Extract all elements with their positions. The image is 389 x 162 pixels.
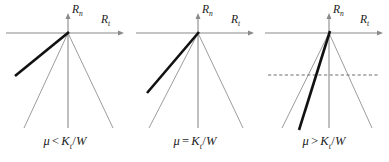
caption-operator: < — [52, 134, 59, 148]
caption-numerator: Kt — [320, 134, 331, 148]
horizontal-axis-arrow-icon — [118, 30, 124, 35]
panel-3-caption: μ>Kt/W — [259, 134, 389, 151]
caption-denominator: W — [76, 134, 87, 148]
cone-edge-left — [282, 33, 329, 128]
axis-label-rt: Rt — [231, 13, 240, 28]
vertical-axis-arrow-icon — [66, 13, 71, 19]
caption-mu-symbol: μ — [302, 134, 308, 148]
caption-operator: > — [311, 134, 318, 148]
caption-denominator: W — [206, 134, 217, 148]
horizontal-axis-arrow-icon — [377, 30, 383, 35]
axis-label-rt: Rt — [101, 13, 110, 28]
caption-operator: = — [182, 134, 189, 148]
friction-cone-figure: Rn Rt μ<Kt/W Rn Rt μ=Kt/W — [0, 0, 389, 162]
caption-denominator: W — [335, 134, 346, 148]
axis-label-rn: Rn — [333, 3, 344, 18]
horizontal-axis-arrow-icon — [248, 30, 254, 35]
panel-mu-equal: Rn Rt μ=Kt/W — [130, 0, 260, 162]
axis-label-rn: Rn — [72, 3, 83, 18]
resultant-force-line — [299, 31, 330, 130]
panel-2-drawing — [130, 0, 260, 135]
caption-numerator: Kt — [191, 134, 202, 148]
caption-mu-symbol: μ — [173, 134, 179, 148]
panel-2-caption: μ=Kt/W — [130, 134, 260, 151]
cone-edge-right — [329, 33, 372, 128]
caption-numerator: Kt — [61, 134, 72, 148]
caption-mu-symbol: μ — [43, 134, 49, 148]
cone-edge-left — [24, 33, 68, 128]
panel-1-caption: μ<Kt/W — [0, 134, 130, 151]
axis-label-rt: Rt — [360, 13, 369, 28]
panel-mu-greater-than: Rn Rt μ>Kt/W — [259, 0, 389, 162]
panel-mu-less-than: Rn Rt μ<Kt/W — [0, 0, 130, 162]
cone-edge-right — [198, 33, 243, 128]
vertical-axis-arrow-icon — [327, 13, 332, 19]
panel-3-drawing — [259, 0, 389, 135]
resultant-force-line — [15, 32, 69, 76]
vertical-axis-arrow-icon — [196, 13, 201, 19]
resultant-force-line — [147, 32, 199, 93]
cone-edge-right — [68, 33, 113, 128]
axis-label-rn: Rn — [202, 3, 213, 18]
panel-1-drawing — [0, 0, 130, 135]
